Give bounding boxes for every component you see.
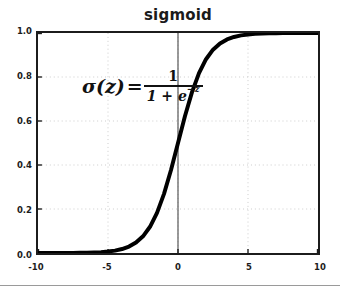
- x-tick-label: 10: [300, 262, 340, 272]
- figure-canvas: sigmoid σ(z) = 1 1 + e−z 0.00.20.40.60.8…: [0, 0, 340, 292]
- bottom-divider: [0, 285, 340, 286]
- x-tick-label: 5: [229, 262, 269, 272]
- x-tick-label: -5: [87, 262, 127, 272]
- x-axis-tick-labels: -10-50510: [0, 0, 340, 292]
- x-tick-label: -10: [16, 262, 56, 272]
- x-tick-label: 0: [158, 262, 198, 272]
